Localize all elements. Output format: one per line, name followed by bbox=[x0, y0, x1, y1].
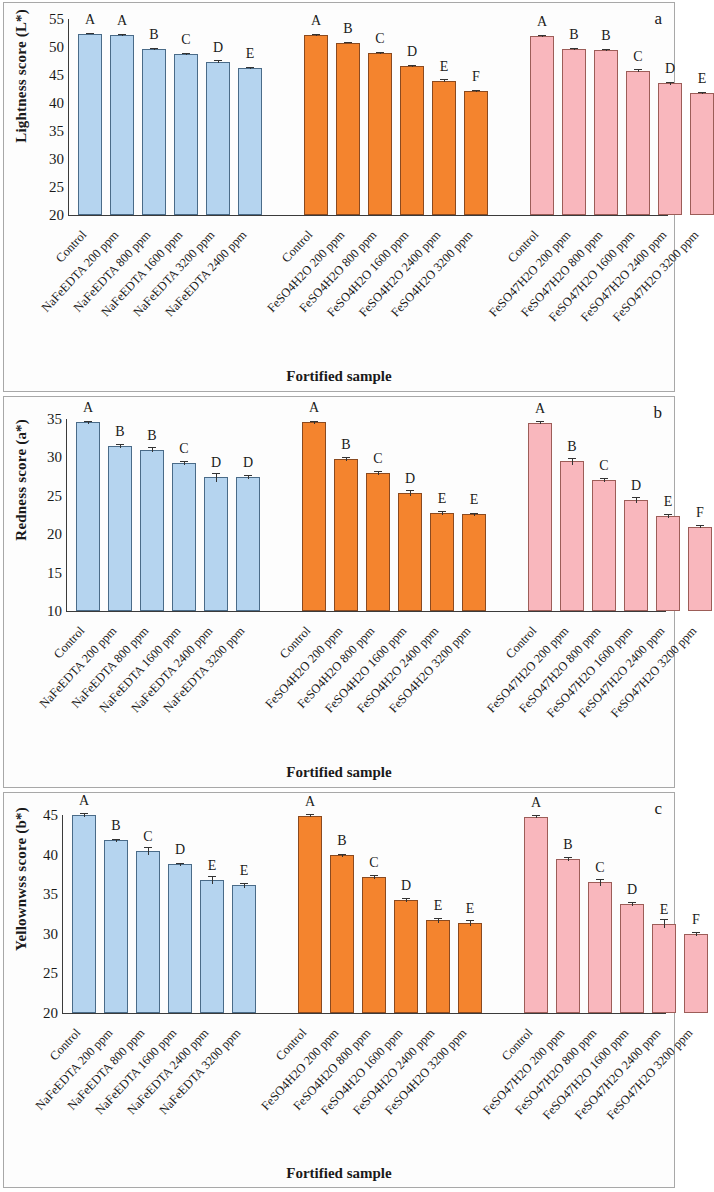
error-bar-cap bbox=[180, 461, 188, 462]
bar bbox=[690, 93, 714, 215]
significance-label: B bbox=[567, 439, 576, 455]
bar bbox=[588, 882, 612, 1013]
y-axis-tick-label: 15 bbox=[28, 564, 62, 581]
y-axis-tick-label: 55 bbox=[30, 11, 64, 28]
y-axis-line bbox=[68, 19, 69, 215]
bar bbox=[104, 840, 128, 1013]
error-bar-cap bbox=[374, 471, 382, 472]
y-axis-tick-label: 30 bbox=[24, 925, 58, 942]
y-axis-tick-label: 30 bbox=[30, 151, 64, 168]
significance-label: C bbox=[633, 49, 642, 65]
significance-label: A bbox=[309, 400, 319, 416]
significance-label: A bbox=[535, 401, 545, 417]
significance-label: E bbox=[434, 898, 443, 914]
y-axis-tick-label: 10 bbox=[28, 603, 62, 620]
error-bar-cap bbox=[632, 497, 640, 498]
error-bar-cap bbox=[440, 79, 448, 80]
x-axis-line bbox=[68, 215, 668, 216]
error-bar-cap bbox=[312, 34, 320, 35]
plot-area-c: 202530354045ABCDEEABCDEEABCDEFControlNaF… bbox=[4, 793, 674, 1187]
bar bbox=[620, 904, 644, 1013]
significance-label: D bbox=[627, 882, 637, 898]
bar bbox=[458, 923, 482, 1013]
y-axis-tick-label: 50 bbox=[30, 39, 64, 56]
y-axis-tick-label: 25 bbox=[30, 179, 64, 196]
significance-label: A bbox=[79, 793, 89, 809]
error-bar-cap bbox=[602, 49, 610, 50]
error-bar-cap bbox=[634, 69, 642, 70]
error-bar-cap bbox=[664, 514, 672, 515]
bar bbox=[336, 43, 360, 215]
y-axis-ticks: 2025303540455055 bbox=[30, 3, 64, 235]
bar bbox=[560, 461, 584, 611]
bar bbox=[426, 920, 450, 1013]
error-bar-cap bbox=[344, 42, 352, 43]
significance-label: C bbox=[179, 441, 188, 457]
bar bbox=[232, 885, 256, 1013]
error-bar-cap bbox=[570, 48, 578, 49]
error-bar-cap bbox=[466, 920, 474, 921]
bar bbox=[656, 516, 680, 611]
y-axis-tick-label: 45 bbox=[30, 67, 64, 84]
bar bbox=[330, 855, 354, 1013]
significance-label: C bbox=[595, 860, 604, 876]
error-bar-cap bbox=[212, 473, 220, 474]
significance-label: B bbox=[149, 27, 158, 43]
error-bar-cap bbox=[696, 525, 704, 526]
significance-label: D bbox=[243, 455, 253, 471]
bar bbox=[652, 924, 676, 1013]
error-bar-cap bbox=[434, 918, 442, 919]
bar bbox=[556, 859, 580, 1013]
significance-label: C bbox=[375, 31, 384, 47]
error-bar-cap bbox=[116, 444, 124, 445]
error-bar-cap bbox=[148, 447, 156, 448]
error-bar bbox=[600, 879, 601, 886]
bar bbox=[684, 934, 708, 1013]
chart-panel-b: b Redness score (a*) 101520253035ABBCDDA… bbox=[3, 396, 675, 788]
bar bbox=[334, 459, 358, 611]
bar bbox=[524, 817, 548, 1013]
x-axis-line bbox=[62, 1013, 666, 1014]
bar bbox=[108, 446, 132, 611]
y-axis-line bbox=[66, 419, 67, 611]
x-axis-title-b: Fortified sample bbox=[4, 764, 674, 781]
bar bbox=[78, 34, 102, 215]
significance-label: A bbox=[537, 14, 547, 30]
significance-label: C bbox=[369, 855, 378, 871]
error-bar-cap bbox=[596, 879, 604, 880]
error-bar bbox=[572, 458, 573, 465]
bar bbox=[594, 50, 618, 215]
significance-label: E bbox=[208, 858, 217, 874]
significance-label: B bbox=[563, 837, 572, 853]
bar bbox=[142, 49, 166, 215]
significance-label: B bbox=[337, 833, 346, 849]
bar bbox=[464, 91, 488, 215]
error-bar-cap bbox=[112, 839, 120, 840]
bar bbox=[200, 880, 224, 1013]
bar bbox=[172, 463, 196, 611]
bar bbox=[398, 493, 422, 611]
y-axis-tick-label: 35 bbox=[24, 886, 58, 903]
bar bbox=[400, 66, 424, 215]
error-bar-cap bbox=[310, 421, 318, 422]
bar bbox=[304, 35, 328, 215]
significance-label: F bbox=[692, 912, 700, 928]
chart-panel-c: c Yellownwss score (b*) 202530354045ABCD… bbox=[3, 792, 675, 1188]
significance-label: E bbox=[440, 59, 449, 75]
significance-label: E bbox=[240, 863, 249, 879]
bar bbox=[204, 477, 228, 611]
bar bbox=[366, 473, 390, 611]
bar bbox=[136, 851, 160, 1013]
y-axis-ticks: 101520253035 bbox=[28, 397, 62, 631]
significance-label: C bbox=[373, 451, 382, 467]
x-axis-title-a: Fortified sample bbox=[4, 368, 674, 385]
y-axis-tick-label: 35 bbox=[30, 123, 64, 140]
significance-label: B bbox=[115, 424, 124, 440]
error-bar-cap bbox=[208, 876, 216, 877]
y-axis-tick-label: 45 bbox=[24, 807, 58, 824]
significance-label: E bbox=[698, 71, 707, 87]
error-bar bbox=[664, 919, 665, 929]
error-bar-cap bbox=[532, 815, 540, 816]
bar bbox=[76, 422, 100, 611]
significance-label: D bbox=[405, 471, 415, 487]
